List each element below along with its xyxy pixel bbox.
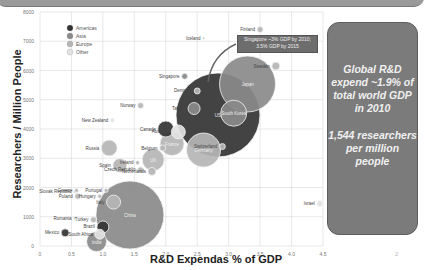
- singapore-callout: Singapore ~3% GDP by 2010; 3.5% GDP by 2…: [237, 35, 318, 53]
- bubble-south-africa: [95, 229, 105, 239]
- legend-swatch: [67, 41, 73, 47]
- bubble-russia: [101, 140, 117, 156]
- callout-line-1: Singapore ~3% GDP by 2010;: [238, 36, 317, 43]
- bubble-singapore: [182, 73, 188, 79]
- bubble-label: India: [92, 240, 102, 245]
- bubble-label: Russia: [85, 146, 99, 151]
- bubble-label: UK: [150, 158, 156, 163]
- y-axis-label: Researchers / Million People: [11, 49, 23, 199]
- bubble-new-zealand: [110, 118, 114, 122]
- bubble-label: South Korea: [221, 111, 247, 116]
- bubble-label: Czech Republic: [104, 167, 136, 172]
- bubble-label: Ireland: [120, 160, 134, 165]
- bubble-label: Australia: [152, 129, 170, 134]
- bubble-label: Switzerland: [194, 144, 218, 149]
- bubble-label: Iceland: [186, 36, 201, 41]
- y-tick-label: 8000: [23, 9, 34, 15]
- bubble-label: Greece: [58, 188, 73, 193]
- bubble-ireland: [135, 161, 139, 165]
- bubble-label: Portugal: [85, 188, 102, 193]
- y-tick-label: 1000: [23, 214, 34, 220]
- bubble-norway: [138, 103, 144, 109]
- bubble-turkey: [90, 217, 96, 223]
- bubble-italy: [107, 195, 121, 209]
- legend-swatch: [67, 33, 73, 39]
- callout-line-2: 3.5% GDP by 2015: [238, 43, 317, 50]
- x-tick-label: 0.5: [68, 251, 75, 257]
- bubble-label: China: [124, 213, 136, 218]
- y-tick-label: 5000: [23, 97, 34, 103]
- y-tick-label: 2000: [23, 185, 34, 191]
- legend-label: Americas: [76, 25, 97, 31]
- bubble-label: Brazil: [84, 224, 95, 229]
- x-axis-label: R&D Expendas % of GDP: [150, 253, 282, 265]
- page-number: 2: [395, 251, 398, 257]
- summary-panel: Global R&D expend ~1.9% of total world G…: [327, 22, 418, 235]
- bubble-portugal: [104, 188, 108, 192]
- panel-researchers-text: 1,544 researchers per million people: [328, 129, 417, 168]
- y-tick-label: 0: [31, 243, 34, 249]
- bubble-label: Turkey: [75, 217, 89, 222]
- bubble-label: Belgium: [141, 146, 158, 151]
- y-tick-label: 6000: [23, 68, 34, 74]
- x-tick-label: 1.5: [131, 251, 138, 257]
- x-tick-label: 1.0: [99, 251, 106, 257]
- bubble-finland: [257, 27, 263, 33]
- bubble-label: Japan: [241, 82, 254, 87]
- panel-gdp-text: Global R&D expend ~1.9% of total world G…: [328, 63, 417, 115]
- bubble-label: Hungary: [79, 194, 97, 199]
- y-tick-label: 3000: [23, 155, 34, 161]
- bubble-label: Mexico: [45, 230, 60, 235]
- bubble-label: France: [165, 142, 180, 147]
- bubble-label: Romania: [54, 216, 73, 221]
- bubble-label: Italy: [96, 200, 105, 205]
- y-tick-label: 7000: [23, 38, 34, 44]
- bubble-label: New Zealand: [82, 118, 109, 123]
- legend-swatch: [67, 25, 73, 31]
- bubble-label: Israel: [304, 201, 315, 206]
- bubble-taiwan: [188, 103, 200, 115]
- bubble-denmark: [194, 88, 200, 94]
- bubble-hungary: [98, 194, 102, 198]
- bubble-slovak-republic: [74, 191, 76, 193]
- bubble-australia: [171, 125, 185, 139]
- x-tick-label: 4.0: [288, 251, 295, 257]
- bubble-iceland: [203, 37, 205, 39]
- bubble-israel: [317, 201, 323, 207]
- y-tick-label: 4000: [23, 126, 34, 132]
- bubble-label: Norway: [120, 103, 136, 108]
- bubble-label: South Africa: [68, 232, 93, 237]
- legend-label: Europe: [76, 41, 92, 47]
- bubble-switzerland: [219, 144, 225, 150]
- bubble-netherlands: [148, 167, 156, 175]
- bubble-label: Finland: [240, 27, 255, 32]
- legend-label: Asia: [76, 33, 86, 39]
- bubble-label: Denmark: [174, 88, 193, 93]
- bubble-label: Singapore: [159, 74, 180, 79]
- x-tick-label: 0: [39, 251, 42, 257]
- bubble-label: US: [215, 113, 221, 118]
- bubble-label: Sweden: [254, 64, 271, 69]
- bubble-label: Taiwan: [172, 106, 187, 111]
- legend-swatch: [67, 49, 73, 55]
- legend-label: Other: [76, 49, 89, 55]
- bubble-label: Poland: [59, 194, 74, 199]
- x-tick-label: 4.5: [320, 251, 327, 257]
- bubble-sweden: [272, 62, 280, 70]
